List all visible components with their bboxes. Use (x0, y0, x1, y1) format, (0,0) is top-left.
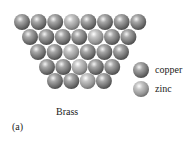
copper-atom-icon (63, 73, 79, 89)
copper-atom-icon (47, 14, 63, 30)
copper-atom-icon (97, 14, 113, 30)
legend-spheres (133, 62, 149, 97)
copper-atom-icon (113, 44, 129, 60)
copper-atom-icon (38, 29, 54, 45)
copper-atom-icon (55, 59, 71, 75)
legend-copper-icon (133, 62, 149, 78)
copper-atom-icon (96, 73, 112, 89)
copper-atom-icon (22, 29, 38, 45)
legend-zinc-label: zinc (155, 84, 172, 94)
copper-atom-icon (96, 44, 112, 60)
atom-group (14, 14, 146, 89)
legend-copper-label: copper (155, 65, 182, 75)
zinc-atom-icon (72, 59, 88, 75)
zinc-atom-icon (80, 73, 96, 89)
copper-atom-icon (14, 14, 30, 30)
copper-atom-icon (80, 14, 96, 30)
copper-atom-icon (88, 59, 104, 75)
copper-atom-icon (30, 44, 46, 60)
copper-atom-icon (47, 44, 63, 60)
zinc-atom-icon (88, 29, 104, 45)
copper-atom-icon (104, 29, 120, 45)
copper-atom-icon (114, 14, 130, 30)
brass-lattice-figure: copper zinc Brass (a) (0, 0, 195, 147)
legend-zinc-icon (133, 81, 149, 97)
copper-atom-icon (39, 59, 55, 75)
panel-label: (a) (12, 122, 23, 132)
copper-atom-icon (55, 29, 71, 45)
copper-atom-icon (130, 14, 146, 30)
copper-atom-icon (47, 73, 63, 89)
copper-atom-icon (71, 29, 87, 45)
figure-title: Brass (56, 107, 78, 117)
copper-atom-icon (31, 14, 47, 30)
copper-atom-icon (104, 59, 120, 75)
zinc-atom-icon (64, 14, 80, 30)
copper-atom-icon (120, 29, 136, 45)
copper-atom-icon (80, 44, 96, 60)
zinc-atom-icon (63, 44, 79, 60)
